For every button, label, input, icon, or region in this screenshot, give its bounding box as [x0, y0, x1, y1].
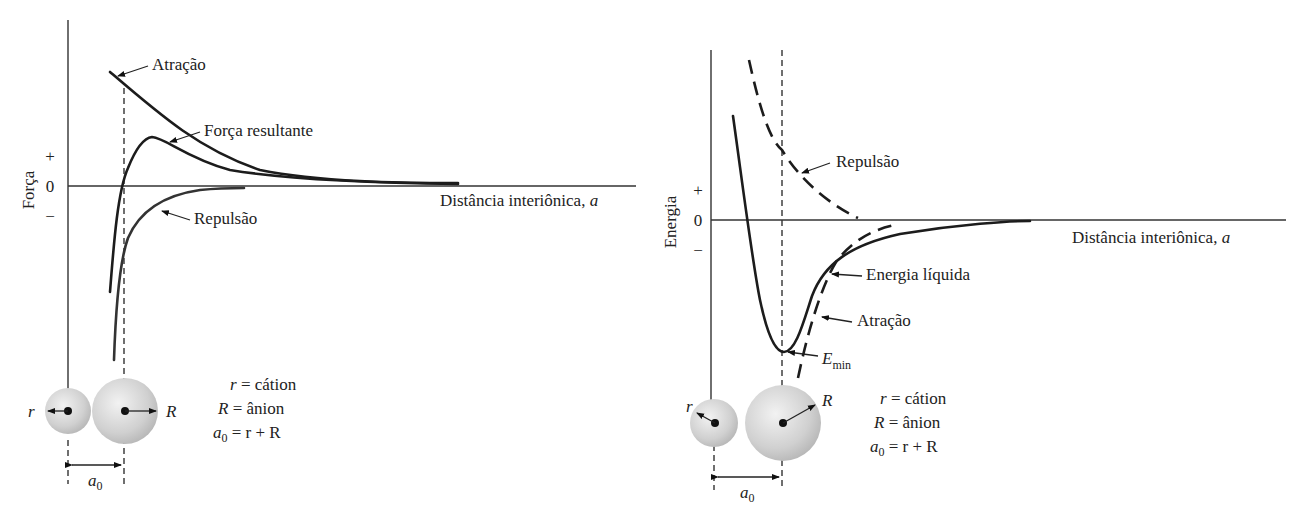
force-chart: Força + 0 − Distância interiônica, a Atr…: [19, 20, 636, 493]
energy-tick-minus: −: [693, 241, 703, 260]
energy-repulsion-pointer: [802, 163, 830, 173]
force-net-label: Força resultante: [204, 121, 313, 140]
force-repulsion-label: Repulsão: [194, 209, 257, 228]
energy-net-label: Energia líquida: [866, 265, 970, 284]
emin-label: Emin: [821, 349, 851, 372]
energy-attraction-pointer: [822, 317, 852, 322]
attraction-pointer: [118, 66, 148, 76]
energy-tick-zero: 0: [694, 211, 703, 230]
energy-tick-plus: +: [693, 181, 703, 200]
force-a0-label: a0: [88, 471, 103, 493]
energy-a0-label: a0: [740, 483, 755, 505]
energy-repulsion-label: Repulsão: [836, 152, 899, 171]
force-attraction-label: Atração: [152, 55, 206, 74]
force-x-label: Distância interiônica, a: [440, 191, 598, 210]
legend-a0: a0 = r + R: [870, 437, 938, 459]
anion-radius-label: R: [165, 402, 177, 421]
force-tick-minus: −: [45, 207, 55, 226]
force-tick-zero: 0: [46, 177, 55, 196]
force-y-label: Força: [19, 170, 38, 209]
energy-repulsion-curve: [749, 60, 858, 218]
energy-x-label: Distância interiônica, a: [1072, 228, 1230, 247]
energy-legend: r = cátion R = ânion a0 = r + R: [870, 389, 947, 459]
net-energy-pointer: [832, 274, 862, 276]
interionic-diagrams: Força + 0 − Distância interiônica, a Atr…: [0, 0, 1306, 518]
legend-cation: r = cátion: [230, 375, 297, 394]
legend-anion: R = ânion: [217, 399, 285, 418]
energy-chart: Energia + 0 − Distância interiônica, a R…: [661, 50, 1286, 505]
cation-radius-label: r: [686, 397, 693, 416]
repulsion-pointer: [162, 211, 190, 220]
force-legend: r = cátion R = ânion a0 = r + R: [213, 375, 297, 445]
legend-cation: r = cátion: [880, 389, 947, 408]
cation-radius-label: r: [28, 402, 35, 421]
legend-anion: R = ânion: [873, 413, 941, 432]
energy-y-label: Energia: [661, 195, 680, 248]
anion-radius-label: R: [821, 391, 833, 410]
legend-a0: a0 = r + R: [213, 423, 281, 445]
energy-attraction-label: Atração: [857, 311, 911, 330]
force-tick-plus: +: [45, 147, 55, 166]
force-net-curve: [110, 137, 458, 292]
